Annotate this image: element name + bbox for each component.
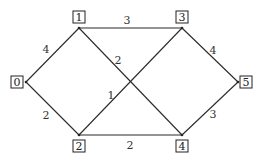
graph-diagram: 42321243 012345 (0, 0, 263, 165)
node-label: 1 (76, 11, 83, 24)
node-label: 4 (179, 140, 186, 153)
vertex-point-3 (181, 27, 184, 30)
node-3: 3 (176, 11, 188, 24)
edge-weight-0-2: 2 (43, 109, 50, 122)
vertex-point-0 (25, 81, 28, 84)
node-5: 5 (240, 76, 252, 89)
vertex-point-1 (78, 27, 81, 30)
node-label: 0 (14, 76, 21, 89)
edge-weight-4-5: 3 (210, 108, 217, 121)
node-label: 3 (179, 11, 186, 24)
node-2: 2 (73, 140, 85, 153)
vertex-point-4 (181, 134, 184, 137)
edge-weight-0-1: 4 (43, 43, 50, 56)
node-4: 4 (176, 140, 188, 153)
edges-layer (26, 28, 238, 135)
edge-0-1 (26, 28, 79, 82)
edge-weight-1-4: 2 (115, 54, 122, 67)
node-0: 0 (11, 76, 23, 89)
node-1: 1 (73, 11, 85, 24)
edge-weight-2-3: 1 (108, 89, 115, 102)
vertex-point-5 (237, 81, 240, 84)
edge-weight-1-3: 3 (124, 14, 131, 27)
edge-weight-3-5: 4 (210, 44, 217, 57)
node-label: 5 (243, 76, 250, 89)
vertex-point-2 (78, 134, 81, 137)
node-label: 2 (76, 140, 83, 153)
edge-weight-2-4: 2 (127, 139, 134, 152)
edge-0-2 (26, 82, 79, 135)
